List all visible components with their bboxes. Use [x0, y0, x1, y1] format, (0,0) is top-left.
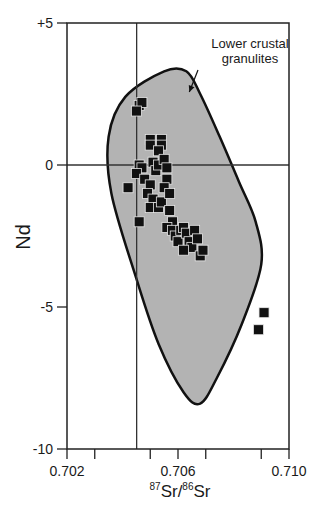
sr-nd-isotope-chart: 0.7020.7060.710+50-5-10 Lower crustal gr…	[0, 0, 315, 516]
x-title-base-2: Sr	[193, 482, 210, 501]
field-annotation: Lower crustal granulites	[189, 36, 289, 92]
data-point-square	[179, 245, 189, 255]
y-tick-label: +5	[37, 15, 53, 31]
data-point-square	[131, 106, 141, 116]
data-point-square	[134, 217, 144, 227]
y-axis-title: Nd	[12, 224, 34, 250]
x-title-sup-1: 87	[150, 481, 162, 492]
data-point-square	[165, 188, 175, 198]
x-axis-title: 87Sr/86Sr	[150, 481, 211, 501]
y-tick-label: -10	[33, 441, 53, 457]
annotation-line-1: Lower crustal	[211, 36, 288, 51]
data-point-square	[192, 234, 202, 244]
data-point-square	[259, 308, 269, 318]
x-tick-label: 0.710	[271, 463, 306, 479]
x-tick-label: 0.706	[160, 463, 195, 479]
y-tick-label: -5	[41, 299, 54, 315]
y-tick-label: 0	[45, 157, 53, 173]
data-point-square	[165, 205, 175, 215]
x-tick-label: 0.702	[49, 463, 84, 479]
data-point-square	[123, 183, 133, 193]
data-point-square	[253, 325, 263, 335]
annotation-line-2: granulites	[222, 51, 279, 66]
x-title-sup-2: 86	[182, 481, 194, 492]
data-point-square	[162, 163, 172, 173]
x-title-base-1: Sr/	[161, 482, 183, 501]
data-point-square	[198, 245, 208, 255]
